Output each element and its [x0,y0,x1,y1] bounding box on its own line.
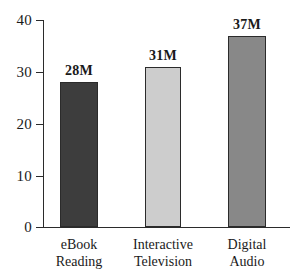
y-tick-mark-20 [36,124,43,125]
y-tick-mark-10 [36,176,43,177]
x-axis-label-line-2: Television [125,253,201,270]
bar-value-ebook-reading: 28M [54,64,104,78]
y-tick-label-30: 30 [2,65,32,80]
y-tick-label-40: 40 [2,13,32,28]
bar-value-digital-audio: 37M [222,18,272,32]
x-axis-label-ebook-reading: eBook Reading [49,236,109,270]
bar-digital-audio[interactable] [228,36,266,227]
x-axis-label-line-2: Audio [216,253,278,270]
bar-value-interactive-television: 31M [138,49,188,63]
x-axis-label-line-2: Reading [49,253,109,270]
y-tick-label-20: 20 [2,117,32,132]
y-tick-mark-30 [36,72,43,73]
y-axis-line [43,20,44,228]
bar-interactive-television[interactable] [145,67,181,227]
x-axis-label-line-1: eBook [49,236,109,253]
x-axis-label-line-1: Interactive [125,236,201,253]
bar-ebook-reading[interactable] [60,82,98,227]
x-axis-label-line-1: Digital [216,236,278,253]
y-tick-label-0: 0 [2,220,32,235]
plot-area: 40 30 20 10 0 28M eBook Reading 31M Inte… [0,0,294,276]
y-tick-mark-0 [36,227,43,228]
x-axis-line [43,227,290,228]
x-axis-label-interactive-television: Interactive Television [125,236,201,270]
y-tick-label-10: 10 [2,169,32,184]
x-axis-label-digital-audio: Digital Audio [216,236,278,270]
y-tick-mark-40 [36,20,43,21]
bar-chart: 40 30 20 10 0 28M eBook Reading 31M Inte… [0,0,294,276]
